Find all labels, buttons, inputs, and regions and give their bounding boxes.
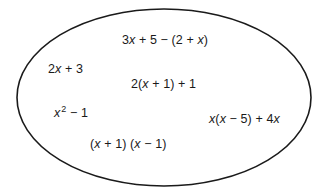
expression-text: 3 [122, 33, 129, 47]
expression-text: + 1) ( [101, 137, 135, 151]
set-ellipse [0, 0, 327, 195]
exponent: 2 [61, 104, 66, 114]
expression-text: + 3 [61, 62, 83, 76]
variable: x [54, 106, 60, 120]
expression-x-squared-minus-1: x2 − 1 [54, 106, 88, 121]
expression-text: + 5 − (2 + [135, 33, 197, 47]
expression-text: 2( [131, 77, 142, 91]
expression-text: 2 [48, 62, 55, 76]
expression-text: + 1) + 1 [149, 77, 196, 91]
expression-text: − 1 [66, 106, 88, 120]
expression-text: − 5) + 4 [226, 112, 273, 126]
expression-2-x-plus-1-plus-1: 2(x + 1) + 1 [131, 77, 196, 91]
expression-text: − 1) [141, 137, 167, 151]
expression-2x-plus-3: 2x + 3 [48, 62, 83, 76]
expression-text: ) [204, 33, 208, 47]
expression-x-plus-1-times-x-minus-1: (x + 1) (x − 1) [90, 137, 167, 151]
diagram-canvas: 3x + 5 − (2 + x) 2x + 3 2(x + 1) + 1 x2 … [0, 0, 327, 195]
expression-x-x-minus-5-plus-4x: x(x − 5) + 4x [209, 112, 280, 126]
variable: x [273, 112, 279, 126]
expression-3x-plus-5-minus-2-plus-x: 3x + 5 − (2 + x) [122, 33, 208, 47]
